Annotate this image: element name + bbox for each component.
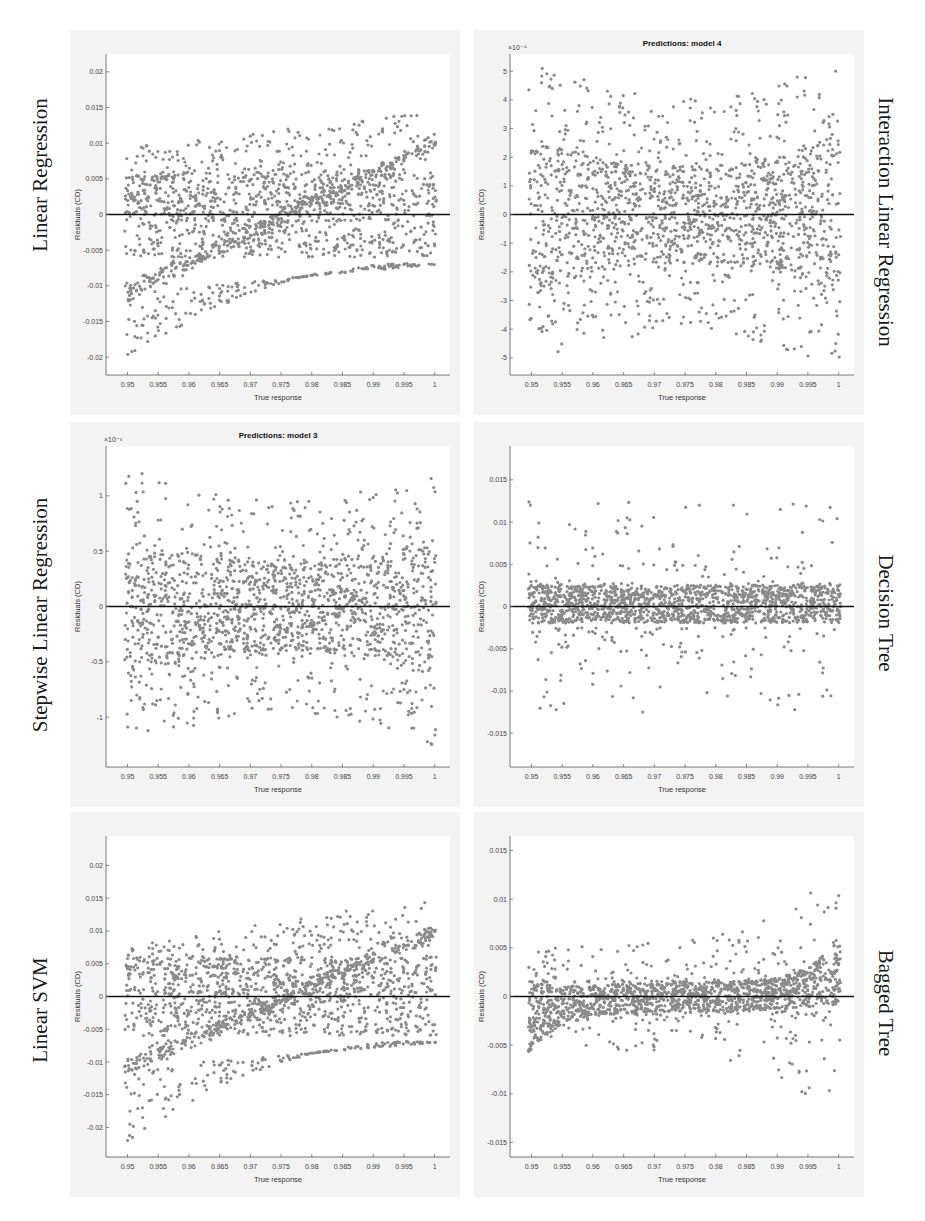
- row-label-left: Linear SVM: [28, 957, 53, 1063]
- x-tick-label: 0.965: [615, 1163, 633, 1170]
- y-tick-label: 1: [503, 182, 507, 189]
- x-tick-label: 0.995: [799, 381, 817, 388]
- scatter-plot: 0.950.9550.960.9650.970.9750.980.9850.99…: [70, 422, 460, 807]
- x-tick-label: 0.98: [305, 381, 319, 388]
- x-tick-label: 0.98: [709, 1163, 723, 1170]
- x-tick-label: 0.97: [648, 381, 662, 388]
- x-tick-label: 0.95: [525, 773, 539, 780]
- y-tick-label: 0.01: [493, 519, 507, 526]
- panel-bagged-tree: 0.950.9550.960.9650.970.9750.980.9850.99…: [474, 812, 864, 1197]
- x-tick-label: 0.975: [272, 773, 290, 780]
- panel-stepwise-linear-regression: 0.950.9550.960.9650.970.9750.980.9850.99…: [70, 422, 460, 807]
- y-tick-label: -1: [97, 714, 103, 721]
- x-tick-label: 0.985: [334, 773, 352, 780]
- y-tick-label: 0.015: [489, 476, 507, 483]
- y-tick-label: 0: [503, 603, 507, 610]
- y-tick-label: -0.02: [87, 1124, 103, 1131]
- y-tick-label: -0.02: [87, 354, 103, 361]
- y-tick-label: 4: [503, 96, 507, 103]
- y-tick-label: 3: [503, 125, 507, 132]
- y-tick-label: -0.005: [83, 1026, 103, 1033]
- y-tick-label: -2: [501, 268, 507, 275]
- x-tick-label: 1: [837, 381, 841, 388]
- y-axis-label: Residuals (CD): [477, 971, 486, 1022]
- x-tick-label: 0.95: [121, 773, 135, 780]
- x-tick-label: 0.995: [799, 773, 817, 780]
- x-axis-label: True response: [254, 1175, 302, 1184]
- row-label-left: Stepwise Linear Regression: [28, 498, 53, 732]
- x-tick-label: 0.98: [305, 773, 319, 780]
- y-tick-label: 0: [503, 993, 507, 1000]
- x-tick-label: 0.96: [182, 773, 196, 780]
- x-tick-label: 1: [433, 773, 437, 780]
- x-tick-label: 0.965: [211, 381, 229, 388]
- x-tick-label: 0.99: [770, 1163, 784, 1170]
- y-tick-label: -0.005: [487, 1042, 507, 1049]
- x-tick-label: 1: [433, 381, 437, 388]
- x-tick-label: 0.975: [676, 1163, 694, 1170]
- panel-interaction-linear-regression: 0.950.9550.960.9650.970.9750.980.9850.99…: [474, 30, 864, 415]
- scatter-plot: 0.950.9550.960.9650.970.9750.980.9850.99…: [70, 30, 460, 415]
- y-tick-label: 0.015: [489, 847, 507, 854]
- y-tick-label: -0.015: [487, 1139, 507, 1146]
- x-tick-label: 0.99: [770, 773, 784, 780]
- x-tick-label: 1: [837, 773, 841, 780]
- x-tick-label: 0.985: [738, 381, 756, 388]
- x-tick-label: 0.975: [676, 773, 694, 780]
- x-tick-label: 0.965: [211, 773, 229, 780]
- row-label-left: Linear Regression: [28, 98, 53, 251]
- x-tick-label: 0.97: [244, 773, 258, 780]
- scatter-plot: 0.950.9550.960.9650.970.9750.980.9850.99…: [474, 422, 864, 807]
- x-tick-label: 0.975: [272, 381, 290, 388]
- y-tick-label: -4: [501, 326, 507, 333]
- x-tick-label: 0.985: [334, 1163, 352, 1170]
- x-tick-label: 0.95: [121, 1163, 135, 1170]
- y-tick-label: 0: [503, 211, 507, 218]
- x-tick-label: 0.96: [586, 1163, 600, 1170]
- y-axis-label: Residuals (CD): [73, 971, 82, 1022]
- y-tick-label: 0: [99, 993, 103, 1000]
- y-exponent-label: ×10⁻³: [104, 436, 123, 443]
- row-label-right: Decision Tree: [873, 554, 898, 671]
- x-tick-label: 0.99: [366, 1163, 380, 1170]
- x-tick-label: 0.99: [366, 381, 380, 388]
- y-tick-label: 0.005: [85, 960, 103, 967]
- x-axis-label: True response: [658, 785, 706, 794]
- y-tick-label: 0.01: [493, 896, 507, 903]
- y-tick-label: 5: [503, 68, 507, 75]
- x-tick-label: 0.995: [395, 381, 413, 388]
- y-tick-label: -0.5: [91, 658, 103, 665]
- y-tick-label: 0.005: [489, 561, 507, 568]
- y-tick-label: -0.005: [487, 645, 507, 652]
- x-tick-label: 0.96: [586, 773, 600, 780]
- y-axis-label: Residuals (CD): [477, 581, 486, 632]
- x-tick-label: 0.96: [182, 381, 196, 388]
- y-tick-label: 0: [99, 603, 103, 610]
- y-tick-label: -0.005: [83, 247, 103, 254]
- y-tick-label: 0.5: [93, 548, 103, 555]
- x-tick-label: 0.97: [648, 1163, 662, 1170]
- x-tick-label: 0.99: [366, 773, 380, 780]
- y-tick-label: -0.01: [87, 282, 103, 289]
- x-tick-label: 0.98: [305, 1163, 319, 1170]
- x-tick-label: 0.965: [211, 1163, 229, 1170]
- x-tick-label: 0.955: [149, 1163, 167, 1170]
- y-tick-label: -5: [501, 354, 507, 361]
- x-tick-label: 0.955: [553, 1163, 571, 1170]
- x-tick-label: 0.955: [149, 381, 167, 388]
- y-axis-label: Residuals (CD): [477, 189, 486, 240]
- y-tick-label: -0.015: [83, 318, 103, 325]
- x-tick-label: 0.975: [676, 381, 694, 388]
- x-tick-label: 0.995: [395, 773, 413, 780]
- x-tick-label: 0.95: [525, 1163, 539, 1170]
- x-tick-label: 0.985: [738, 1163, 756, 1170]
- x-tick-label: 0.965: [615, 381, 633, 388]
- y-axis-label: Residuals (CD): [73, 581, 82, 632]
- y-tick-label: 1: [99, 492, 103, 499]
- panel-linear-svm: 0.950.9550.960.9650.970.9750.980.9850.99…: [70, 812, 460, 1197]
- x-tick-label: 0.955: [149, 773, 167, 780]
- x-tick-label: 0.95: [121, 381, 135, 388]
- x-tick-label: 0.985: [334, 381, 352, 388]
- x-axis-label: True response: [254, 393, 302, 402]
- y-tick-label: 2: [503, 154, 507, 161]
